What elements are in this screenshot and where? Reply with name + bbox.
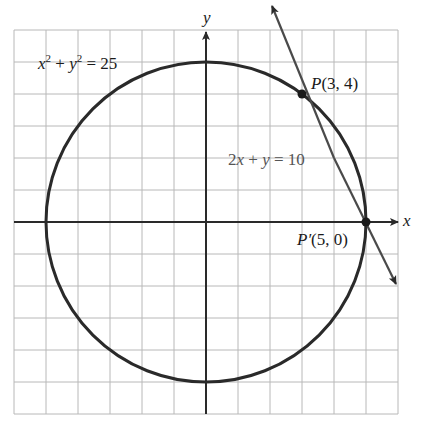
line-eq-rhs: = 10 <box>270 150 305 169</box>
point-p-coords: (3, 4) <box>321 74 358 93</box>
point-p-prime <box>362 218 371 227</box>
line-equation-label: 2x + y = 10 <box>228 150 305 169</box>
line-eq-plus: + <box>244 150 262 169</box>
circle-equation-label: x2 + y2 = 25 <box>37 52 117 73</box>
point-p-prime-label: P′(5, 0) <box>296 230 348 249</box>
y-axis-label: y <box>201 8 211 27</box>
x-axis-label: x <box>402 211 411 230</box>
point-p-name: P <box>310 74 321 93</box>
point-p-prime-name: P′ <box>296 230 311 249</box>
point-p-prime-coords: (5, 0) <box>311 230 348 249</box>
circle-eq-y: y <box>67 54 77 73</box>
line-eq-coef: 2 <box>228 150 237 169</box>
point-p <box>298 90 307 99</box>
line-eq-y: y <box>260 150 270 169</box>
circle-eq-rhs: = 25 <box>82 54 117 73</box>
point-p-label: P(3, 4) <box>310 74 358 93</box>
tangent-line-diagram: y x x2 + y2 = 25 2x + y = 10 P(3, 4) P′(… <box>0 0 421 437</box>
circle-eq-plus: + <box>51 54 69 73</box>
